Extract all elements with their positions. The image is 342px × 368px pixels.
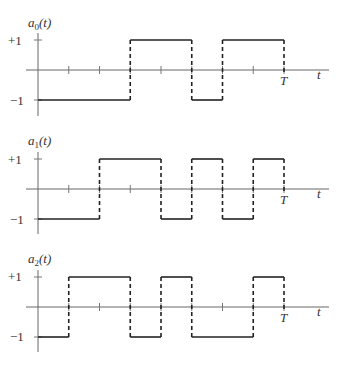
time-axis-label: t [317, 304, 321, 319]
period-label-T: T [280, 192, 288, 207]
waveform-figure: a0(t) +1 −1 T t a1(t) +1 −1 T t a2(t) +1… [0, 0, 342, 368]
plot-a0: a0(t) +1 −1 T t [8, 15, 329, 116]
period-label-T: T [280, 310, 288, 325]
y-axis-label: a1(t) [28, 133, 51, 150]
y-tick-label-minus-one: −1 [10, 93, 24, 108]
time-axis-label: t [317, 186, 321, 201]
waveform-a2 [26, 270, 329, 352]
time-axis-label: t [317, 67, 321, 82]
waveform-a1 [26, 152, 329, 234]
y-axis-label: a0(t) [28, 15, 51, 32]
y-tick-label-plus-one: +1 [8, 152, 22, 167]
y-axis-label: a2(t) [28, 251, 51, 268]
period-label-T: T [280, 73, 288, 88]
y-tick-label-minus-one: −1 [10, 212, 24, 227]
y-tick-label-minus-one: −1 [10, 329, 24, 344]
plot-a2: a2(t) +1 −1 T t [8, 251, 329, 352]
plot-a1: a1(t) +1 −1 T t [8, 133, 329, 234]
y-tick-label-plus-one: +1 [8, 33, 22, 48]
y-tick-label-plus-one: +1 [8, 269, 22, 284]
